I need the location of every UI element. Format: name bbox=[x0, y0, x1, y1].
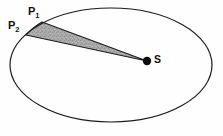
point-label-p2: P2 bbox=[8, 20, 20, 31]
kepler-orbit-figure: P1 P2 S bbox=[0, 0, 223, 136]
point-label-p1: P1 bbox=[28, 6, 40, 17]
point-label-s: S bbox=[154, 54, 161, 65]
point-label-p1-subscript: 1 bbox=[35, 11, 39, 20]
point-label-p2-subscript: 2 bbox=[15, 25, 19, 34]
orbit-diagram-svg bbox=[0, 0, 223, 136]
swept-area-sector bbox=[26, 22, 147, 61]
focus-point-marker bbox=[143, 57, 151, 65]
